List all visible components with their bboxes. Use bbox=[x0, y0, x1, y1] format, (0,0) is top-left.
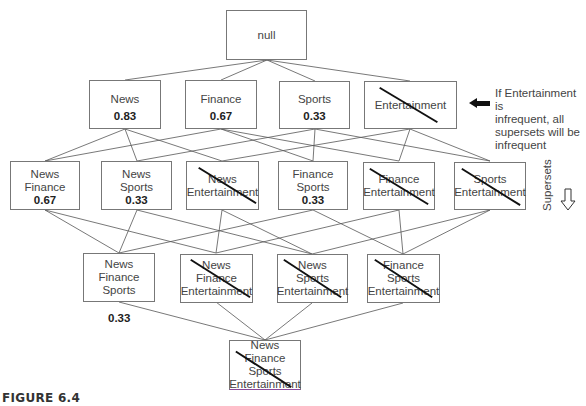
note-line: infrequent, all bbox=[495, 113, 586, 126]
node-label: Entertainment bbox=[375, 99, 447, 112]
note-line: infrequent bbox=[495, 139, 586, 152]
node-finance-sports: Finance Sports 0.33 bbox=[278, 161, 348, 210]
support-value: 0.33 bbox=[125, 194, 147, 207]
node-news-sports-entertainment-pruned: News Sports Entertainment bbox=[277, 254, 348, 303]
node-finance-sports-entertainment-pruned: Finance Sports Entertainment bbox=[367, 254, 440, 303]
node-label: News bbox=[251, 339, 280, 352]
left-arrow-icon bbox=[469, 98, 490, 108]
down-arrow-icon bbox=[561, 189, 575, 210]
support-value: 0.33 bbox=[108, 312, 130, 324]
node-label: Finance bbox=[25, 181, 66, 194]
node-label: Sports bbox=[102, 284, 135, 297]
node-label: Entertainment bbox=[454, 186, 526, 199]
node-label: Sports bbox=[248, 365, 281, 378]
node-news-finance: News Finance 0.67 bbox=[10, 161, 80, 210]
node-label: Sports bbox=[387, 272, 420, 285]
node-label: Sports bbox=[120, 181, 153, 194]
node-label: News bbox=[202, 259, 231, 272]
support-value: 0.67 bbox=[210, 110, 232, 123]
node-label: Sports bbox=[298, 93, 331, 106]
node-news-sports: News Sports 0.33 bbox=[101, 161, 172, 210]
node-label: News bbox=[105, 258, 134, 271]
node-null: null bbox=[226, 10, 307, 60]
node-news-finance-sports: News Finance Sports bbox=[83, 253, 155, 302]
node-label: Finance bbox=[383, 259, 424, 272]
node-news-finance-entertainment-pruned: News Finance Entertainment bbox=[180, 254, 253, 303]
node-label: News bbox=[31, 168, 60, 181]
node-finance: Finance 0.67 bbox=[185, 80, 257, 129]
support-value: 0.83 bbox=[114, 110, 136, 123]
node-label: Finance bbox=[196, 272, 237, 285]
node-sports: Sports 0.33 bbox=[279, 81, 350, 129]
node-label: Entertainment bbox=[363, 186, 435, 199]
node-label: Entertainment bbox=[368, 285, 440, 298]
node-news-entertainment-pruned: News Entertainment bbox=[186, 161, 259, 210]
node-label: Sports bbox=[296, 181, 329, 194]
support-value: 0.67 bbox=[34, 194, 56, 207]
node-label: Entertainment bbox=[181, 285, 253, 298]
node-label: Finance bbox=[201, 93, 242, 106]
node-label: News bbox=[122, 168, 151, 181]
support-value: 0.33 bbox=[302, 194, 324, 207]
node-label: News bbox=[208, 173, 237, 186]
node-label: Entertainment bbox=[187, 186, 259, 199]
node-label: null bbox=[258, 29, 276, 42]
node-label: Entertainment bbox=[229, 378, 301, 391]
node-label: Finance bbox=[99, 271, 140, 284]
node-label: Entertainment bbox=[277, 285, 349, 298]
node-label: Finance bbox=[293, 168, 334, 181]
node-sports-entertainment-pruned: Sports Entertainment bbox=[454, 162, 526, 210]
node-label: News bbox=[111, 93, 140, 106]
node-entertainment-pruned: Entertainment bbox=[364, 81, 457, 129]
node-label: Sports bbox=[473, 173, 506, 186]
node-label: Finance bbox=[379, 173, 420, 186]
node-label: News bbox=[298, 259, 327, 272]
support-value: 0.33 bbox=[303, 110, 325, 123]
note-line: If Entertainment is bbox=[495, 87, 586, 113]
node-all-four-pruned: News Finance Sports Entertainment bbox=[229, 340, 301, 390]
note-line: supersets will be bbox=[495, 126, 586, 139]
node-finance-entertainment-pruned: Finance Entertainment bbox=[363, 162, 435, 210]
pruning-note: If Entertainment is infrequent, all supe… bbox=[495, 87, 586, 152]
node-label: Sports bbox=[296, 272, 329, 285]
node-label: Finance bbox=[245, 352, 286, 365]
figure-caption: FIGURE 6.4 bbox=[2, 391, 80, 405]
node-news: News 0.83 bbox=[89, 80, 161, 129]
supersets-label: Supersets bbox=[541, 159, 553, 211]
